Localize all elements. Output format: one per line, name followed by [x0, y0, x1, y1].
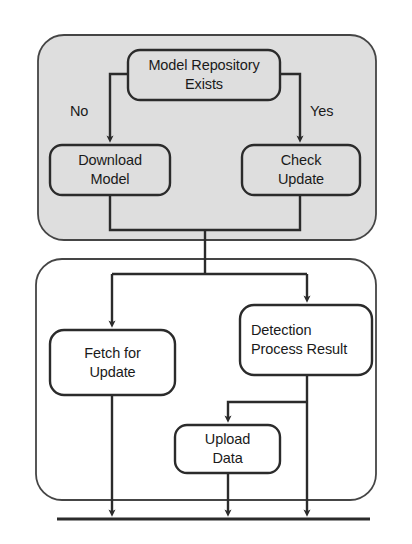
- edge-label-no: No: [70, 104, 88, 119]
- detection-process-result-box[interactable]: [240, 305, 372, 375]
- download-model-box[interactable]: [50, 145, 170, 195]
- flowchart-diagram: Model Repository Exists Download Model C…: [0, 0, 412, 544]
- edge-label-yes: Yes: [310, 104, 333, 119]
- model-repository-exists-box[interactable]: [128, 50, 280, 100]
- upload-data-box[interactable]: [175, 425, 280, 473]
- fetch-for-update-box[interactable]: [50, 330, 175, 395]
- flowchart-canvas: [0, 0, 412, 544]
- check-update-box[interactable]: [242, 145, 360, 195]
